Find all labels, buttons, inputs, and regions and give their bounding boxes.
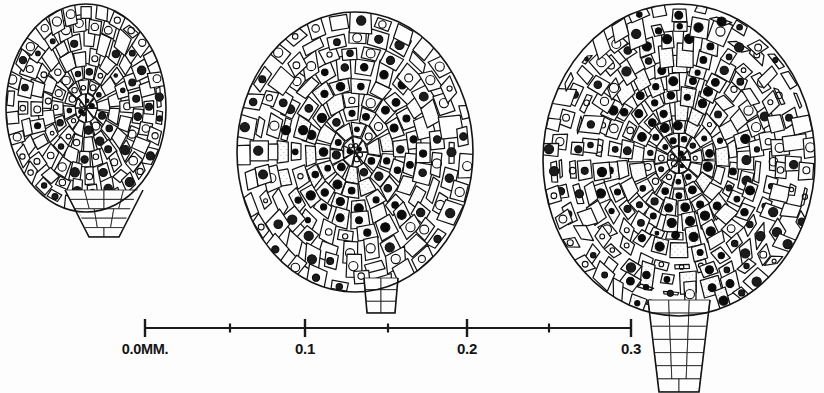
illustration-plate: 0.0MM.0.10.20.3	[0, 0, 824, 393]
scale-tick-label: 0.1	[295, 340, 315, 357]
scale-tick-label: 0.0MM.	[122, 341, 169, 357]
specimen-2	[236, 6, 474, 316]
specimen-3	[543, 4, 815, 393]
specimen-1	[2, 0, 174, 240]
scale-tick-label: 0.2	[457, 340, 477, 357]
